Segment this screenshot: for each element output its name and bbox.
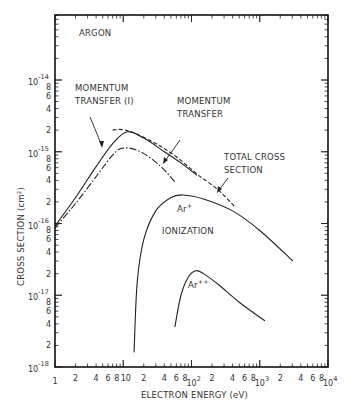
- x-tick-label: 104: [323, 375, 337, 388]
- annotation-momentum-transfer-line2: TRANSFER: [176, 109, 223, 119]
- x-tick-label-base: 10: [323, 379, 333, 388]
- x-minor-tick-label: 2: [278, 374, 283, 383]
- x-minor-tick-label: 4: [162, 374, 167, 383]
- y-minor-tick-label: 6: [46, 92, 51, 101]
- x-minor-tick-label: 2: [210, 374, 215, 383]
- annotation-total-line1: TOTAL CROSS: [223, 152, 285, 162]
- ar-plus-text: Ar: [177, 204, 187, 214]
- y-minor-tick-label: 8: [46, 83, 51, 92]
- x-minor-tick-label: 8: [114, 374, 119, 383]
- x-tick-label-base: 10: [255, 379, 265, 388]
- x-minor-tick-label: 4: [230, 374, 235, 383]
- y-tick-label-base: 10: [28, 150, 38, 159]
- annotation-ar-plus: Ar+: [177, 202, 192, 214]
- y-tick-label-exp: -15: [38, 145, 49, 153]
- y-tick-label: 10-18: [28, 360, 49, 374]
- x-minor-tick-label: 4: [298, 374, 303, 383]
- ar-plus-charge: +: [187, 202, 193, 210]
- annotation-ar-plus-plus: Ar++: [188, 278, 209, 290]
- y-minor-tick-label: 4: [46, 105, 51, 114]
- plot-frame: [55, 15, 328, 367]
- y-tick-label-base: 10: [28, 365, 38, 374]
- x-tick-label: 102: [187, 375, 201, 388]
- x-axis-title: ELECTRON ENERGY (eV): [141, 390, 248, 400]
- y-tick-label-base: 10: [28, 78, 38, 87]
- annotation-momentum-transfer-line1: MOMENTUM: [177, 96, 230, 106]
- y-minor-tick-label: 6: [46, 235, 51, 244]
- y-minor-tick-label: 2: [46, 270, 51, 279]
- y-minor-tick-label: 2: [46, 341, 51, 350]
- x-tick-label-exp: 2: [197, 375, 201, 383]
- y-minor-tick-label: 4: [46, 176, 51, 185]
- x-minor-tick-label: 2: [141, 374, 146, 383]
- y-minor-tick-label: 8: [46, 155, 51, 164]
- x-tick-label-base: 10: [121, 374, 131, 383]
- x-tick-label-exp: 3: [265, 375, 269, 383]
- y-tick-label-base: 10: [28, 222, 38, 231]
- x-tick-label: 1: [53, 377, 58, 386]
- annotation-momentum-transfer-i-line1: MOMENTUM: [75, 83, 128, 93]
- ar-plus-plus-text: Ar: [188, 280, 198, 290]
- x-minor-tick-label: 6: [242, 374, 247, 383]
- y-tick-label-base: 10: [28, 293, 38, 302]
- x-tick-label: 103: [255, 375, 269, 388]
- y-tick-label-exp: -14: [38, 73, 49, 81]
- annotation-argon: ARGON: [79, 28, 111, 38]
- y-minor-tick-label: 4: [46, 320, 51, 329]
- x-tick-label: 10: [121, 374, 131, 383]
- series-momentum-transfer: [55, 148, 175, 228]
- y-tick-label-exp: -17: [38, 288, 49, 296]
- y-minor-tick-label: 2: [46, 198, 51, 207]
- x-tick-label-base: 1: [53, 377, 58, 386]
- axis-ticks: [55, 15, 328, 367]
- y-minor-tick-label: 8: [46, 298, 51, 307]
- cross-section-chart: 2468246824682468110102103104246824682468…: [0, 0, 348, 407]
- x-minor-tick-label: 6: [174, 374, 179, 383]
- y-axis-title: CROSS SECTION (cm²): [16, 187, 26, 286]
- arrowhead-momentum-transfer-i: [99, 141, 104, 148]
- x-minor-tick-label: 6: [310, 374, 315, 383]
- y-minor-tick-label: 8: [46, 226, 51, 235]
- x-minor-tick-label: 4: [94, 374, 99, 383]
- y-minor-tick-label: 6: [46, 307, 51, 316]
- y-minor-tick-label: 6: [46, 164, 51, 173]
- x-tick-label-base: 10: [187, 379, 197, 388]
- annotation-total-line2: SECTION: [224, 165, 263, 175]
- annotation-momentum-transfer-i-line2: TRANSFER (I): [74, 96, 134, 106]
- x-minor-tick-label: 6: [106, 374, 111, 383]
- y-tick-label-exp: -16: [38, 217, 49, 225]
- y-tick-label-exp: -18: [38, 360, 49, 368]
- series-ar-ionization: [134, 195, 293, 352]
- ar-plus-plus-charge: ++: [198, 278, 209, 286]
- x-minor-tick-label: 2: [73, 374, 78, 383]
- y-minor-tick-label: 2: [46, 126, 51, 135]
- series-total-cross-section: [113, 129, 235, 207]
- curves: [55, 129, 293, 352]
- y-minor-tick-label: 4: [46, 248, 51, 257]
- annotation-ionization: IONIZATION: [162, 226, 214, 236]
- x-tick-label-exp: 4: [333, 375, 337, 383]
